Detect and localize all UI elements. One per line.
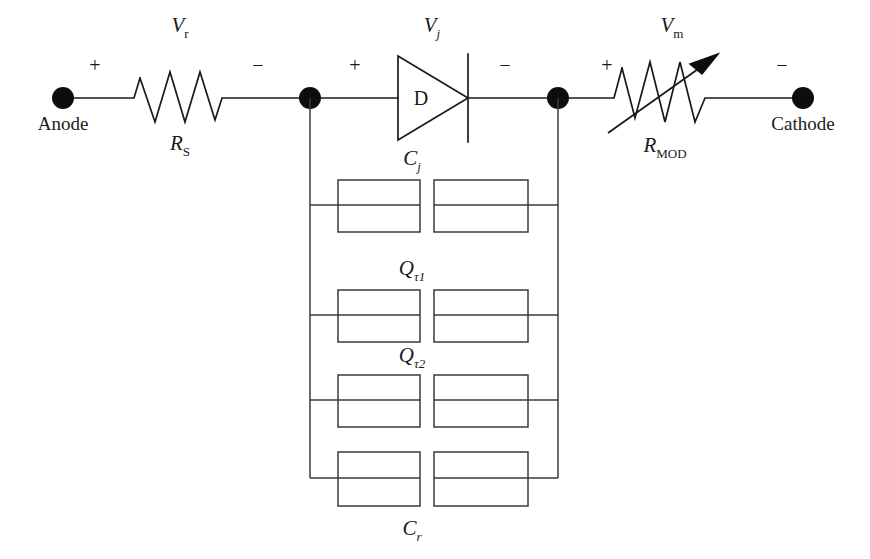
wire-anode-to-rs	[74, 78, 140, 98]
qtau2-label: Qτ2	[399, 343, 426, 371]
cathode-terminal-dot	[792, 87, 814, 109]
cr-label: Cr	[402, 516, 422, 544]
branch-capacitor-qtau1: Qτ1	[310, 256, 558, 342]
vr-label: Vr	[171, 13, 189, 41]
rs-label-group: RS	[169, 131, 190, 159]
series-resistor-symbol	[140, 72, 308, 122]
cr-right-plate	[434, 452, 528, 506]
cj-left-plate	[338, 180, 420, 232]
anode-label: Anode	[38, 113, 89, 134]
diode-triangle	[398, 56, 468, 140]
qtau1-left-plate	[338, 290, 420, 342]
circuit-diagram: Anode Vr RS + − D Vj +	[0, 0, 870, 559]
cj-right-plate	[434, 180, 528, 232]
branch-capacitor-qtau2: Qτ2	[310, 343, 558, 427]
mod-resistor-symbol	[622, 62, 792, 122]
wire-rightnode-to-rmod	[569, 68, 622, 98]
branch-capacitor-cr: Cr	[310, 452, 558, 544]
qtau1-right-plate	[434, 290, 528, 342]
qtau2-right-plate	[434, 375, 528, 427]
polarity-plus-rs: +	[89, 54, 100, 76]
diode-letter-label: D	[414, 87, 428, 109]
cathode-label: Cathode	[771, 113, 834, 134]
vm-label: Vm	[661, 13, 684, 41]
cr-left-plate	[338, 452, 420, 506]
vj-label: Vj	[424, 13, 441, 41]
rmod-label: RMOD	[642, 133, 686, 161]
vr-label-group: Vr	[171, 13, 189, 41]
branch-capacitor-cj: Cj	[310, 146, 558, 232]
circuit-svg: Anode Vr RS + − D Vj +	[0, 0, 870, 559]
qtau1-label: Qτ1	[399, 256, 425, 284]
cj-label: Cj	[403, 146, 421, 174]
qtau2-left-plate	[338, 375, 420, 427]
polarity-minus-rs: −	[252, 54, 263, 76]
rs-label: RS	[169, 131, 190, 159]
polarity-minus-diode: −	[499, 54, 510, 76]
polarity-minus-rmod: −	[776, 54, 787, 76]
anode-terminal-dot	[52, 87, 74, 109]
polarity-plus-rmod: +	[601, 54, 612, 76]
polarity-plus-diode: +	[349, 54, 360, 76]
